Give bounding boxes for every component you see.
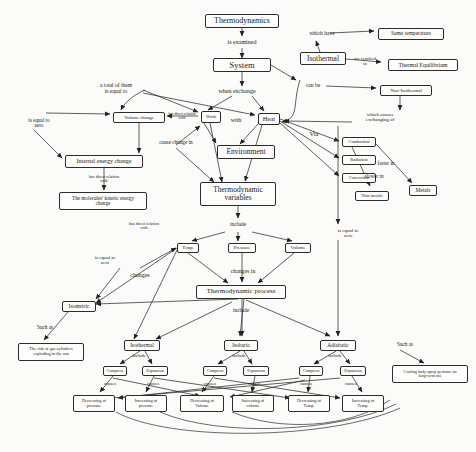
node-isometric[interactable]: Isometric: [62, 301, 96, 312]
edge-label-include-process: include: [227, 308, 255, 314]
node-compress-adia[interactable]: Compress: [299, 366, 323, 376]
node-inc-pressure[interactable]: Increasing of pressure: [125, 395, 167, 412]
edge-label-faster-in: faster in: [370, 161, 402, 166]
edge-label-causes-6: causes: [339, 382, 363, 387]
node-isothermal-top[interactable]: Isothermal: [300, 52, 346, 65]
edge-label-causes-5: causes: [294, 382, 318, 387]
edge-label-causes-3: causes: [198, 382, 222, 387]
edge-label-include-isob: include: [226, 354, 252, 359]
node-metals[interactable]: Metals: [409, 185, 437, 196]
edge-label-is-equal-to-zero-mid: is equal to zero: [84, 255, 126, 266]
node-isobaric[interactable]: Isobaric: [224, 340, 258, 351]
edge-label-is-equal-to-zero-left: is equal to zero: [18, 118, 60, 129]
edge-label-causes-2: causes: [141, 382, 165, 387]
node-conduction[interactable]: Conduction: [342, 137, 376, 147]
edge-label-has-direct-relation-with-3: has direct relation with: [120, 222, 168, 231]
edge-label-with: with: [228, 117, 244, 123]
edge-label-are-reached-to: are reached to: [345, 56, 385, 66]
edge-label-can-be: can be: [300, 83, 326, 89]
node-inc-temp[interactable]: Increasing of Temp.: [342, 395, 384, 412]
edge-label-such-as-right: Such as: [390, 342, 420, 347]
node-volume[interactable]: Volume: [285, 243, 311, 253]
edge-label-slower-in: slower in: [358, 174, 390, 179]
edge-label-a-total-of-them: a total of them is equal to: [87, 83, 145, 95]
node-non-metals[interactable]: Non-metals: [355, 191, 389, 201]
edge-label-via: Via: [306, 131, 322, 138]
edge-label-is-examined: is examined: [216, 39, 268, 45]
node-system[interactable]: System: [213, 58, 271, 72]
edge-label-include-adia: include: [322, 354, 348, 359]
edge-label-which-causes-exchanging: which causes exchanging of: [355, 112, 405, 123]
node-non-isothermal[interactable]: Non-Isothermal: [380, 85, 432, 96]
node-cooling-spray[interactable]: Cooling body spray perfume on long-term …: [392, 365, 468, 383]
node-dec-pressure[interactable]: Decreasing of pressure: [73, 395, 115, 412]
edge-label-causes-4: causes: [242, 382, 266, 387]
node-adiabatic[interactable]: Adiabatic: [320, 340, 356, 351]
edge-label-when-exchange: when exchange: [207, 88, 267, 94]
edge-label-changes-in: changes in: [222, 268, 264, 274]
node-compress-isob[interactable]: Compress: [203, 366, 227, 376]
node-pressure[interactable]: Pressure: [228, 243, 256, 253]
node-internal-energy-change[interactable]: Internal energy change: [65, 155, 143, 168]
node-thermal-equilibrium[interactable]: Thermal Equilibrium: [388, 59, 458, 71]
edge-label-causes-1: causes: [98, 382, 122, 387]
node-heat[interactable]: Heat: [258, 113, 280, 125]
edge-label-include-variables: include: [224, 222, 252, 228]
node-expansion-adia[interactable]: Expansion: [340, 366, 366, 376]
node-dec-volume[interactable]: Decreasing of Volume: [180, 395, 224, 412]
node-same-temperature[interactable]: Same temperature: [378, 28, 444, 40]
node-thermodynamics[interactable]: Thermodynamics: [205, 14, 279, 28]
concept-map-canvas: ThermodynamicsSystemIsothermalSame tempe…: [0, 0, 476, 452]
node-compress-iso[interactable]: Compress: [103, 366, 127, 376]
node-molecules-kinetic[interactable]: The molecules' kinetic energy change: [59, 192, 147, 210]
edge-label-cause-change-in: cause change in: [148, 140, 204, 146]
node-thermodynamic-process[interactable]: Thermodynamic process: [196, 285, 286, 299]
edge-label-changes: changes: [123, 272, 157, 278]
node-thermodynamic-variables[interactable]: Thermodynamic variables: [200, 182, 276, 206]
edge-label-has-direct-relation-with-2: has direct relation with: [80, 175, 128, 184]
node-volume-change[interactable]: Volume change: [113, 112, 165, 123]
node-isothermal-bottom[interactable]: Isothermal: [124, 340, 160, 351]
node-expansion-isob[interactable]: Expansion: [243, 366, 269, 376]
edge-label-include-iso: include: [126, 354, 152, 359]
node-temp[interactable]: Temp.: [177, 243, 199, 253]
node-inc-volume[interactable]: Increasing of volume: [232, 395, 274, 412]
node-work[interactable]: Work: [201, 111, 221, 123]
node-expansion-iso[interactable]: Expansion: [142, 366, 168, 376]
node-environment[interactable]: Environment: [217, 145, 275, 159]
edge-label-is-equal-to-zero-right: is equal to zero: [327, 228, 369, 239]
node-gas-cylinder-risk[interactable]: The risk of gas cylinders exploding in t…: [18, 343, 84, 361]
edge-label-which-have: which have: [300, 31, 344, 37]
edge-label-such-as-left: Such as: [30, 325, 60, 330]
edge-label-has-direct-relation-with-1: has direct relation with: [160, 112, 204, 120]
node-dec-temp[interactable]: Decreasing of Temp.: [288, 395, 330, 412]
